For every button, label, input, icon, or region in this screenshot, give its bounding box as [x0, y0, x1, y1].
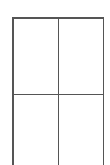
- grid-column-divider: [58, 17, 60, 165]
- grid-cell-row0-col0[interactable]: [14, 19, 58, 94]
- grid-row-divider: [12, 94, 104, 96]
- screenshot-canvas: [0, 0, 110, 165]
- two-by-two-grid: [12, 17, 104, 165]
- grid-cell-row0-col1[interactable]: [59, 19, 103, 94]
- grid-cell-row1-col1[interactable]: [59, 95, 103, 165]
- grid-left-border: [12, 17, 14, 165]
- grid-cell-row1-col0[interactable]: [14, 95, 58, 165]
- grid-right-border: [103, 17, 105, 165]
